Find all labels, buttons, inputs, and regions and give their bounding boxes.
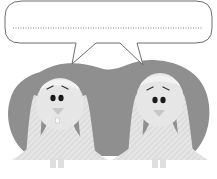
speech-bubble xyxy=(5,1,212,65)
right-bunny-eye-left xyxy=(152,97,157,103)
illustration-scene xyxy=(0,0,217,179)
illustration-canvas xyxy=(0,0,217,179)
left-bunny-tooth xyxy=(56,118,60,123)
left-bunny-eye-left xyxy=(50,95,55,101)
right-bunny-eye-right xyxy=(160,97,165,103)
speech-bubble-text xyxy=(14,12,202,26)
left-bunny-eye-right xyxy=(58,95,63,101)
